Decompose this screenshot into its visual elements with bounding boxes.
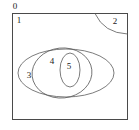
region-label-2: 2 (113, 16, 118, 26)
diagram-canvas: 0 1 2 3 4 5 (0, 0, 139, 130)
region-label-3: 3 (27, 70, 32, 80)
region-label-1: 1 (17, 15, 22, 25)
region-label-4: 4 (50, 56, 55, 66)
region-label-0: 0 (13, 1, 18, 11)
corner-arc-curve (95, 14, 128, 35)
venn-diagram-figure: 0 1 2 3 4 5 (0, 0, 139, 130)
region-label-5: 5 (67, 61, 72, 71)
